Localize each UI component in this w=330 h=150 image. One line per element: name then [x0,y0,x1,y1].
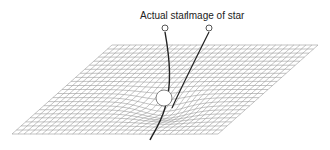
actual-star-icon [162,25,168,31]
grid-line [30,118,236,122]
gravitational-lensing-diagram: Actual star Image of star [0,0,330,150]
image-star-icon [206,25,212,31]
spacetime-grid [12,45,318,134]
grid-line [109,45,209,134]
image-of-star-label: Image of star [186,10,244,21]
mass-sphere [156,90,172,106]
diagram-canvas [0,0,330,150]
actual-star-label: Actual star [140,10,187,21]
